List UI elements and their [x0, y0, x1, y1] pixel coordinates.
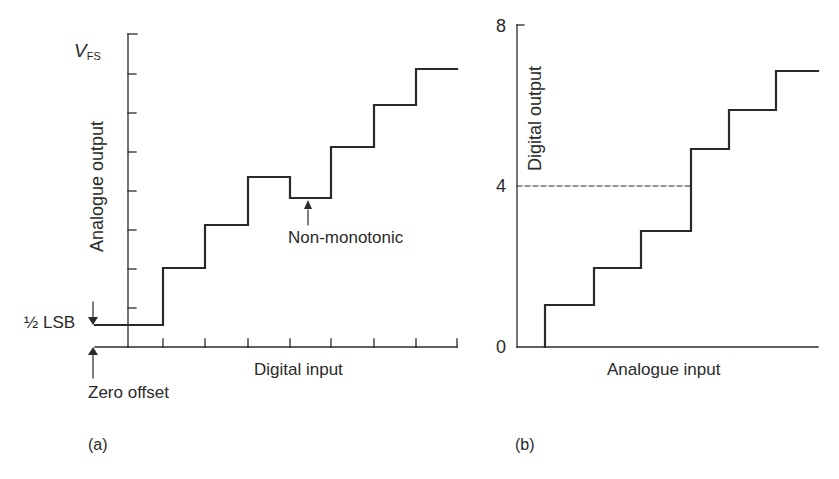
zero-offset-arrowhead-icon — [88, 347, 98, 355]
chart-b-transfer-curve — [545, 71, 818, 347]
chart-b-tick-8: 8 — [496, 16, 506, 37]
half-lsb-text: LSB — [43, 313, 75, 332]
chart-a-caption: (a) — [88, 436, 108, 454]
chart-a-axes — [95, 34, 457, 347]
chart-b-xlabel: Analogue input — [607, 360, 720, 380]
chart-b-tick-0: 0 — [496, 337, 506, 358]
chart-b-tick-4: 4 — [496, 176, 506, 197]
zero-offset-label: Zero offset — [88, 383, 169, 403]
half-lsb-fraction: ½ — [24, 313, 38, 332]
half-lsb-label: ½ LSB — [24, 313, 75, 333]
chart-b-caption: (b) — [515, 436, 535, 454]
chart-a-transfer-curve — [95, 69, 457, 325]
chart-b-ylabel: Digital output — [525, 66, 546, 171]
vfs-label: VFS — [74, 40, 101, 62]
figure-svg — [0, 0, 839, 479]
chart-a-ylabel: Analogue output — [87, 121, 108, 252]
vfs-main: V — [74, 40, 87, 61]
vfs-subscript: FS — [87, 50, 101, 62]
half-lsb-arrowhead-icon — [88, 317, 98, 325]
chart-a-xlabel: Digital input — [254, 360, 343, 380]
non-monotonic-arrowhead-icon — [304, 200, 312, 209]
non-monotonic-label: Non-monotonic — [288, 228, 403, 248]
